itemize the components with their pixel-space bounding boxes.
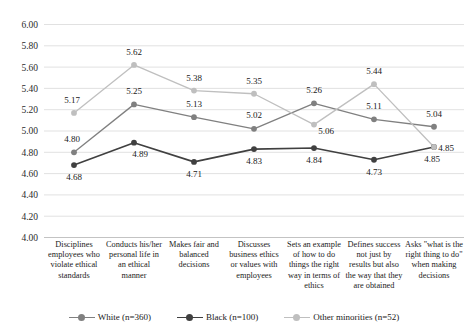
data-point-marker [71,149,77,155]
x-axis-category-label: Asks "what is the right thing to do" whe… [404,240,464,281]
y-axis-tick-label: 5.20 [21,105,38,115]
data-point-label: 4.71 [186,169,202,179]
data-point-label: 5.17 [64,95,80,105]
data-point-label: 5.11 [366,101,381,111]
y-axis-tick-label: 6.00 [21,20,38,30]
y-axis-tick-label: 4.80 [21,148,38,158]
data-point-marker [311,122,317,128]
y-axis-tick-label: 5.60 [21,63,38,73]
legend-label: Other minorities (n=52) [313,312,399,322]
x-axis-category-label: Discusses business ethics or values with… [224,240,284,281]
y-axis-tick-label: 4.00 [21,233,38,243]
data-point-label: 4.80 [64,134,80,144]
y-axis-tick-labels: 6.005.805.605.405.205.004.804.604.404.20… [21,20,38,243]
data-point-label: 4.68 [66,172,82,182]
data-point-label: 5.35 [246,76,262,86]
data-point-label: 5.06 [318,126,334,136]
data-point-marker [371,116,377,122]
data-point-marker [251,126,257,132]
data-point-marker [251,91,257,97]
data-point-label: 4.83 [246,156,262,166]
data-point-marker [191,114,197,120]
x-axis-category-labels: Disciplines employees who violate ethica… [44,240,464,306]
data-point-label: 5.26 [306,85,322,95]
legend-swatch-icon [177,313,203,322]
legend-item[interactable]: White (n=360) [69,312,151,322]
y-axis-tick-label: 4.40 [21,190,38,200]
x-axis-category-label: Makes fair and balanced decisions [164,240,224,271]
data-point-label: 5.62 [126,47,142,57]
data-point-marker [431,124,437,130]
y-axis-tick-label: 5.80 [21,41,38,51]
data-point-marker [131,62,137,68]
legend-swatch-icon [284,313,310,322]
data-point-marker [131,140,137,146]
legend-marker-dot [293,314,300,321]
legend-label: Black (n=100) [206,312,258,322]
data-point-label: 5.13 [186,99,202,109]
legend-item[interactable]: Other minorities (n=52) [284,312,399,322]
data-point-marker [191,88,197,94]
data-point-marker [191,159,197,165]
chart-legend: White (n=360)Black (n=100)Other minoriti… [0,306,468,328]
data-point-marker [431,144,437,150]
legend-marker-dot [78,314,85,321]
legend-label: White (n=360) [98,312,151,322]
data-point-label: 4.89 [132,149,148,159]
data-point-marker [251,146,257,152]
data-point-label: 4.84 [306,155,322,165]
data-point-label: 5.04 [426,109,442,119]
y-axis-tick-label: 5.00 [21,126,38,136]
data-point-label: 5.44 [366,66,382,76]
line-chart: 6.005.805.605.405.205.004.804.604.404.20… [0,0,468,330]
data-point-label: 5.02 [246,110,262,120]
legend-swatch-icon [69,313,95,322]
data-point-marker [131,101,137,107]
x-axis-category-label: Defines success not just by results but … [344,240,404,291]
x-axis-category-label: Conducts his/her personal life in an eth… [104,240,164,281]
y-axis-tick-label: 5.40 [21,84,38,94]
data-point-marker [371,157,377,163]
data-point-marker [371,81,377,87]
data-point-label: 4.73 [366,167,382,177]
legend-marker-dot [186,314,193,321]
y-axis-tick-label: 4.20 [21,212,38,222]
y-axis-tick-label: 4.60 [21,169,38,179]
x-axis-category-label: Disciplines employees who violate ethica… [44,240,104,281]
legend-item[interactable]: Black (n=100) [177,312,258,322]
data-point-label: 5.38 [186,73,202,83]
data-point-marker [311,145,317,151]
data-point-marker [71,110,77,116]
data-point-label: 4.85 [438,143,454,153]
data-point-label: 4.85 [424,154,440,164]
data-point-marker [311,100,317,106]
data-point-label: 5.25 [126,86,142,96]
x-axis-category-label: Sets an example of how to do things the … [284,240,344,291]
data-point-marker [71,162,77,168]
